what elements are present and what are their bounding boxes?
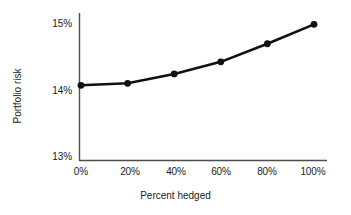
- x-tick-label-60: 60%: [201, 166, 241, 177]
- y-tick-label-14: 14%: [32, 85, 72, 96]
- data-point: [217, 58, 224, 65]
- chart-container: Portfolio risk Percent hedged 15% 14% 13…: [0, 0, 351, 215]
- x-tick-label-20: 20%: [110, 166, 150, 177]
- y-tick-label-13: 13%: [32, 151, 72, 162]
- chart-plot-area: [0, 0, 351, 215]
- x-tick-label-40: 40%: [156, 166, 196, 177]
- y-axis-title: Portfolio risk: [8, 42, 26, 150]
- data-point: [78, 82, 85, 89]
- x-axis-title: Percent hedged: [0, 190, 351, 201]
- x-tick-label-100: 100%: [293, 166, 333, 177]
- x-tick-label-0: 0%: [61, 166, 101, 177]
- data-point: [171, 71, 178, 78]
- data-point: [264, 40, 271, 47]
- data-point: [311, 21, 318, 28]
- y-tick-label-15: 15%: [32, 18, 72, 29]
- x-tick-label-80: 80%: [247, 166, 287, 177]
- y-axis-title-text: Portfolio risk: [12, 68, 23, 123]
- data-point: [124, 80, 131, 87]
